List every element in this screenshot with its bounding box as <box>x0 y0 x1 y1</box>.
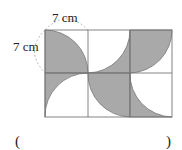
shaded-grid-figure <box>0 0 182 150</box>
answer-close-paren: ) <box>166 134 171 149</box>
shaded-regions <box>45 30 172 117</box>
left-dimension-label: 7 cm <box>13 40 39 53</box>
answer-blank[interactable] <box>26 133 166 149</box>
top-dimension-label: 7 cm <box>52 11 78 24</box>
answer-open-paren: ( <box>15 134 20 149</box>
